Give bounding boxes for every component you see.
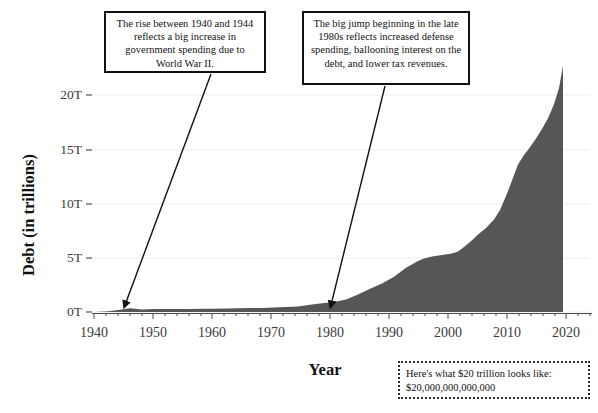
- y-tick-0t: 0T: [67, 304, 83, 319]
- note-line-1: Here's what $20 trillion looks like:: [406, 367, 583, 381]
- arrow-eighties: [331, 86, 385, 305]
- y-tick-20t: 20T: [60, 87, 83, 102]
- x-tick-1990: 1990: [375, 325, 403, 340]
- y-axis-tick-labels: 20T 15T 10T 5T 0T: [60, 87, 83, 319]
- x-axis-title: Year: [309, 360, 342, 379]
- chart-figure: 20T 15T 10T 5T 0T 1940 1950 1960 1970 19…: [0, 0, 598, 413]
- y-tick-10t: 10T: [60, 196, 83, 211]
- debt-area-series: [94, 66, 563, 313]
- y-axis-ticks: [86, 95, 92, 312]
- arrow-wwii: [125, 74, 211, 305]
- x-tick-1960: 1960: [198, 325, 226, 340]
- annotation-arrows: [125, 74, 385, 305]
- y-axis-title: Debt (in trillions): [19, 154, 38, 276]
- x-tick-1950: 1950: [139, 325, 167, 340]
- x-tick-2020: 2020: [552, 325, 580, 340]
- twenty-trillion-note: Here's what $20 trillion looks like: $20…: [398, 361, 590, 399]
- x-tick-2000: 2000: [434, 325, 462, 340]
- x-tick-1980: 1980: [316, 325, 344, 340]
- x-tick-2010: 2010: [493, 325, 521, 340]
- x-axis-tick-labels: 1940 1950 1960 1970 1980 1990 2000 2010 …: [80, 325, 580, 340]
- annotation-wwii: The rise between 1940 and 1944 reflects …: [104, 11, 266, 73]
- note-line-2: $20,000,000,000,000: [406, 381, 583, 395]
- annotation-eighties: The big jump beginning in the late 1980s…: [302, 11, 470, 85]
- y-tick-15t: 15T: [60, 142, 83, 157]
- debt-area-chart: 20T 15T 10T 5T 0T 1940 1950 1960 1970 19…: [0, 0, 598, 413]
- x-tick-1940: 1940: [80, 325, 108, 340]
- x-tick-1970: 1970: [257, 325, 285, 340]
- y-tick-5t: 5T: [67, 250, 83, 265]
